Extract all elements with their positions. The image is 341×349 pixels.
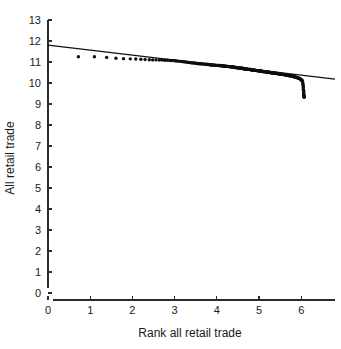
y-tick-label: 9 (35, 98, 41, 110)
regression-line (48, 45, 335, 79)
data-point (139, 58, 142, 61)
chart-figure: 012345678910111213 0123456 Rank all reta… (0, 0, 341, 349)
y-tick-label: 10 (29, 77, 41, 89)
y-tick-label: 1 (35, 266, 41, 278)
scatter-plot: 012345678910111213 0123456 Rank all reta… (0, 0, 341, 349)
data-point (129, 57, 132, 60)
y-tick-label: 11 (30, 56, 41, 68)
data-point (134, 57, 137, 60)
data-point (105, 56, 108, 59)
x-tick-label: 3 (172, 304, 178, 316)
x-axis-ticks: 0123456 (45, 296, 304, 316)
data-point (302, 96, 305, 99)
data-point (114, 57, 117, 60)
x-axis-title: Rank all retail trade (138, 326, 242, 340)
y-tick-label: 2 (35, 245, 41, 257)
data-point (151, 58, 154, 61)
y-axis-title: All retail trade (3, 121, 17, 195)
data-point (77, 55, 80, 58)
x-tick-label: 6 (298, 304, 304, 316)
y-tick-label: 5 (35, 182, 41, 194)
x-tick-label: 0 (45, 304, 51, 316)
y-tick-label: 7 (35, 140, 41, 152)
y-tick-label: 6 (35, 161, 41, 173)
y-tick-label: 3 (35, 224, 41, 236)
y-tick-label: 8 (35, 119, 41, 131)
data-point (143, 58, 146, 61)
y-tick-label: 0 (35, 287, 41, 299)
x-tick-label: 2 (129, 304, 135, 316)
y-tick-label: 12 (29, 35, 41, 47)
x-tick-label: 4 (214, 304, 220, 316)
x-tick-label: 5 (256, 304, 262, 316)
data-point (122, 57, 125, 60)
data-point (148, 58, 151, 61)
x-tick-label: 1 (87, 304, 93, 316)
y-tick-label: 4 (35, 203, 41, 215)
y-tick-label: 13 (29, 14, 41, 26)
data-point (93, 55, 96, 58)
